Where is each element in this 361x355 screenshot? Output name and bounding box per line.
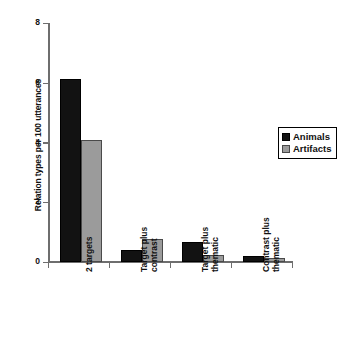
x-tick-mark [292,262,293,268]
x-category-line: 2 targets [84,237,94,272]
x-category-label-target-plus-contrast: Target plus contrast [139,227,159,272]
x-tick-mark [170,262,171,268]
x-tick-mark [48,262,49,268]
x-tick-mark [231,262,232,268]
x-category-label-2-targets: 2 targets [84,237,94,272]
x-category-line: Target plus [139,227,149,272]
y-tick-label: 2 [26,197,40,206]
y-tick-label: 8 [26,18,40,27]
x-category-line: contrast [149,227,159,272]
legend-swatch-icon [282,133,290,141]
legend-label: Animals [293,132,330,142]
legend-swatch-icon [282,145,290,153]
x-category-line: thematic [210,227,220,272]
x-category-label-contrast-plus-thematic: Contrast plus thematic [261,217,281,272]
legend-label: Artifacts [293,144,332,154]
y-tick-label: 6 [26,78,40,87]
y-axis-line [48,23,50,262]
y-tick-mark [43,23,48,24]
bar-chart: Relation types per 100 utterances 0 2 4 … [0,0,361,355]
bar-animals-2-targets [60,79,81,262]
chart-legend: Animals Artifacts [278,127,337,159]
y-tick-mark [43,202,48,203]
legend-item-artifacts: Artifacts [282,143,332,155]
x-category-line: Target plus [200,227,210,272]
legend-item-animals: Animals [282,131,332,143]
y-tick-mark [43,142,48,143]
y-tick-mark [43,83,48,84]
y-tick-label: 4 [26,138,40,147]
y-tick-label: 0 [26,257,40,266]
x-category-line: Contrast plus [261,217,271,272]
x-tick-mark [109,262,110,268]
x-category-label-target-plus-thematic: Target plus thematic [200,227,220,272]
x-category-line: thematic [271,217,281,272]
